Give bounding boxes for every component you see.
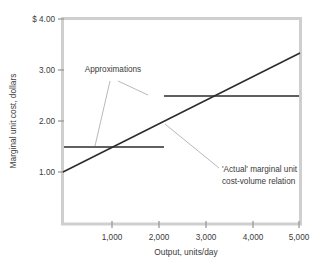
x-tick-label-1000: 1,000	[102, 233, 123, 242]
x-axis-title: Output, units/day	[154, 247, 218, 257]
x-tick-label-3000: 3,000	[196, 233, 217, 242]
y-tick-label-2: 2.00	[39, 117, 55, 126]
x-tick-label-2000: 2,000	[149, 233, 170, 242]
y-axis-title: Marginal unit cost, dollars	[8, 74, 18, 169]
y-tick-label-3: 3.00	[39, 66, 55, 75]
annotation-actual-line2: cost-volume relation	[222, 177, 296, 186]
leader-approximations-right	[118, 81, 148, 95]
plot-frame	[63, 19, 301, 225]
leader-approximations-left	[95, 81, 110, 146]
leader-actual	[165, 124, 219, 168]
x-tick-label-5000: 5,000	[289, 233, 310, 242]
chart-canvas: $ 4.00 3.00 2.00 1.00 1,000 2,000 3,000 …	[0, 0, 335, 265]
chart-figure: $ 4.00 3.00 2.00 1.00 1,000 2,000 3,000 …	[0, 0, 335, 265]
x-tick-label-4000: 4,000	[243, 233, 264, 242]
y-tick-label-4: $ 4.00	[32, 15, 55, 24]
y-tick-label-1: 1.00	[39, 168, 55, 177]
annotation-actual-line1: 'Actual' marginal unit	[222, 165, 298, 174]
annotation-approximations: Approximations	[85, 65, 141, 74]
